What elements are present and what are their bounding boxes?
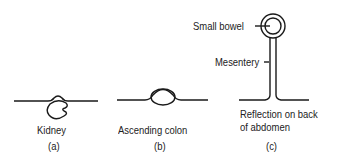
caption-b: (b) bbox=[154, 140, 166, 152]
peritoneum-diagram bbox=[0, 0, 340, 162]
label-reflection-line2: of abdomen bbox=[240, 121, 290, 133]
caption-a: (a) bbox=[48, 140, 60, 152]
label-kidney: Kidney bbox=[37, 124, 66, 136]
mesentery-stalk bbox=[239, 38, 309, 101]
ascending-colon-shape bbox=[151, 89, 175, 105]
peritoneum-line-a bbox=[14, 96, 98, 101]
peritoneum-line-b bbox=[117, 90, 208, 101]
caption-c: (c) bbox=[266, 140, 277, 152]
label-ascending-colon: Ascending colon bbox=[118, 124, 187, 136]
label-small-bowel: Small bowel bbox=[193, 20, 244, 32]
label-reflection-line1: Reflection on back bbox=[240, 108, 318, 120]
label-mesentery: Mesentery bbox=[215, 56, 259, 68]
kidney-shape bbox=[47, 101, 67, 119]
